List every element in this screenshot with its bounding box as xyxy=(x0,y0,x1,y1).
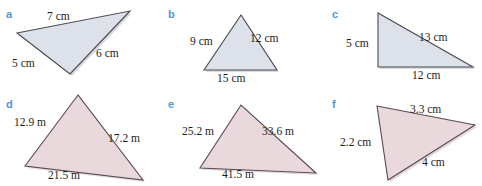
side-label-b-right: 12 cm xyxy=(250,33,278,45)
side-label-a-right: 6 cm xyxy=(96,48,119,60)
triangles-canvas xyxy=(0,0,482,186)
figure-letter-f: f xyxy=(332,99,336,110)
side-label-d-right: 17.2 m xyxy=(108,133,140,145)
side-label-e-left: 25.2 m xyxy=(182,126,214,138)
figure-letter-e: e xyxy=(168,99,174,110)
triangle-f xyxy=(377,106,475,180)
side-label-e-right: 33.6 m xyxy=(262,126,294,138)
figure-letter-b: b xyxy=(168,9,175,20)
side-label-f-top: 3.3 cm xyxy=(410,104,441,116)
side-label-d-left: 12.9 m xyxy=(14,117,46,129)
side-label-b-base: 15 cm xyxy=(217,73,245,85)
side-label-c-base: 12 cm xyxy=(412,70,440,82)
side-label-f-left: 2.2 cm xyxy=(340,137,371,149)
figure-sheet: a b c d e f 7 cm 6 cm 5 cm 9 cm 12 cm 15… xyxy=(0,0,482,186)
side-label-a-left: 5 cm xyxy=(12,58,35,70)
figure-letter-c: c xyxy=(332,9,338,20)
side-label-e-base: 41.5 m xyxy=(222,169,254,181)
side-label-f-bottom: 4 cm xyxy=(422,157,445,169)
side-label-c-left: 5 cm xyxy=(346,38,369,50)
figure-letter-a: a xyxy=(6,9,12,20)
triangle-e xyxy=(200,105,316,173)
figure-letter-d: d xyxy=(6,99,13,110)
side-label-c-hyp: 13 cm xyxy=(419,32,447,44)
side-label-d-base: 21.5 m xyxy=(48,170,80,182)
side-label-b-left: 9 cm xyxy=(190,36,213,48)
side-label-a-top: 7 cm xyxy=(47,11,70,23)
